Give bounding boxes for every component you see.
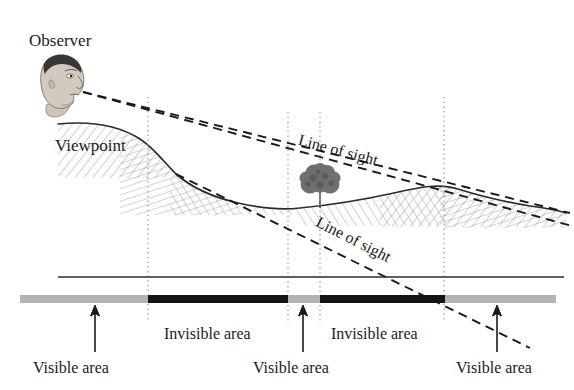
visible-area-2-label: Visible area	[253, 359, 329, 377]
visible-area-1-arrow	[91, 305, 100, 352]
visibility-strip	[20, 295, 556, 303]
visible-area-1-label: Visible area	[33, 359, 109, 377]
observer-label: Observer	[29, 31, 91, 51]
visible-area-2-arrow	[299, 305, 308, 352]
strip-segment-visible-3	[445, 295, 556, 303]
tree-icon	[300, 163, 341, 208]
invisible-area-1-label: Invisible area	[164, 325, 251, 343]
strip-segment-visible-2	[288, 295, 320, 303]
leader-arrows	[91, 305, 502, 352]
strip-segment-invisible-1	[148, 295, 288, 303]
strip-segment-visible-1	[20, 295, 148, 303]
figure-canvas	[0, 0, 574, 390]
viewpoint-label: Viewpoint	[55, 136, 126, 156]
observer-head-icon	[41, 55, 84, 118]
visible-area-3-arrow	[493, 305, 502, 352]
strip-segment-invisible-2	[320, 295, 445, 303]
invisible-area-2-label: Invisible area	[331, 325, 418, 343]
line-of-sight-viewshed-figure: Observer Viewpoint Line of sight Line of…	[0, 0, 574, 390]
visible-area-3-label: Visible area	[456, 359, 532, 377]
